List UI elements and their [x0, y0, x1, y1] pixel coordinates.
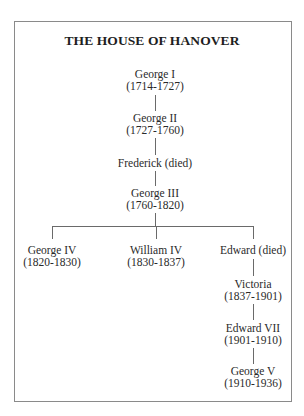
- node-george-v: George V (1910-1936): [198, 365, 304, 389]
- node-george-i: George I (1714-1727): [100, 68, 210, 92]
- node-reign: (1830-1837): [101, 256, 211, 268]
- node-edward: Edward (died): [198, 244, 304, 256]
- node-reign: (1820-1830): [0, 256, 107, 268]
- connector-line: [155, 213, 156, 227]
- node-name: George IV: [0, 244, 107, 256]
- connector-line: [155, 171, 156, 186]
- node-name: George III: [100, 187, 210, 199]
- node-name: George I: [100, 68, 210, 80]
- node-edward-vii: Edward VII (1901-1910): [198, 322, 304, 346]
- sibling-bar: [52, 226, 254, 227]
- connector-line: [253, 259, 254, 276]
- node-name: William IV: [101, 244, 211, 256]
- node-victoria: Victoria (1837-1901): [198, 278, 304, 302]
- node-name: Edward VII: [198, 322, 304, 334]
- connector-line: [156, 226, 157, 239]
- connector-line: [155, 95, 156, 111]
- node-george-iv: George IV (1820-1830): [0, 244, 107, 268]
- connector-line: [155, 138, 156, 155]
- node-reign: (1714-1727): [100, 80, 210, 92]
- node-name: Victoria: [198, 278, 304, 290]
- node-george-iii: George III (1760-1820): [100, 187, 210, 211]
- node-reign: (1901-1910): [198, 334, 304, 346]
- node-william-iv: William IV (1830-1837): [101, 244, 211, 268]
- connector-line: [253, 226, 254, 239]
- node-reign: (1760-1820): [100, 199, 210, 211]
- connector-line: [52, 226, 53, 239]
- node-name: Frederick (died): [100, 157, 210, 169]
- node-name: George V: [198, 365, 304, 377]
- connector-line: [253, 304, 254, 320]
- node-reign: (1837-1901): [198, 290, 304, 302]
- node-name: Edward (died): [198, 244, 304, 256]
- node-name: George II: [100, 112, 210, 124]
- node-reign: (1727-1760): [100, 124, 210, 136]
- node-reign: (1910-1936): [198, 377, 304, 389]
- node-george-ii: George II (1727-1760): [100, 112, 210, 136]
- diagram-title: THE HOUSE OF HANOVER: [0, 33, 304, 49]
- connector-line: [253, 348, 254, 364]
- node-frederick: Frederick (died): [100, 157, 210, 169]
